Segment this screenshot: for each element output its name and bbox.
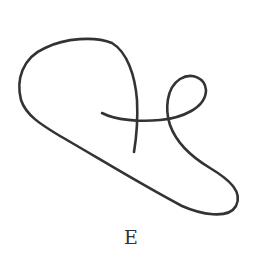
closed-loop-curve <box>19 39 238 215</box>
curve-diagram <box>0 0 262 264</box>
figure-label: E <box>0 226 262 248</box>
